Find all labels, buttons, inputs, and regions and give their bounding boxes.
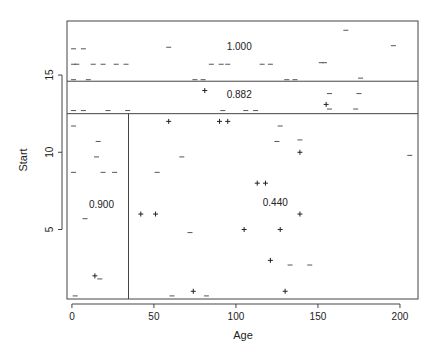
plus-marker <box>92 273 97 278</box>
y-tick-label: 5 <box>44 226 55 232</box>
plus-marker <box>138 212 143 217</box>
plus-marker <box>255 181 260 186</box>
plus-marker <box>297 150 302 155</box>
region-labels: 1.0000.8820.9000.440 <box>89 41 288 210</box>
region-label: 0.900 <box>89 199 114 210</box>
plot-area <box>67 21 418 299</box>
y-axis-label: Start <box>17 148 29 171</box>
plus-marker <box>166 119 171 124</box>
y-tick-label: 15 <box>44 69 55 81</box>
plus-marker <box>191 289 196 294</box>
region-label: 0.440 <box>263 197 288 208</box>
plus-marker <box>283 289 288 294</box>
plus-marker <box>263 181 268 186</box>
x-tick-label: 0 <box>69 311 75 322</box>
x-tick-label: 100 <box>228 311 245 322</box>
plus-marker <box>202 88 207 93</box>
chart-canvas: 1.0000.8820.9000.440 050100150200 51015 … <box>0 0 441 359</box>
plus-marker <box>278 227 283 232</box>
region-label: 0.882 <box>227 89 252 100</box>
x-axis-label: Age <box>233 329 253 341</box>
plus-marker <box>324 102 329 107</box>
plus-marker <box>268 258 273 263</box>
x-tick-label: 200 <box>392 311 409 322</box>
plus-marker <box>153 212 158 217</box>
plus-marker <box>217 119 222 124</box>
x-tick-label: 50 <box>148 311 160 322</box>
plus-marker <box>242 227 247 232</box>
x-tick-label: 150 <box>310 311 327 322</box>
plus-marker <box>297 212 302 217</box>
data-points <box>71 30 412 296</box>
x-axis: 050100150200 <box>69 304 409 322</box>
plot-frame <box>67 21 418 299</box>
plus-marker <box>225 119 230 124</box>
y-tick-label: 10 <box>44 146 55 158</box>
y-axis: 51015 <box>44 69 62 232</box>
region-label: 1.000 <box>227 41 252 52</box>
partition-lines <box>67 81 418 299</box>
